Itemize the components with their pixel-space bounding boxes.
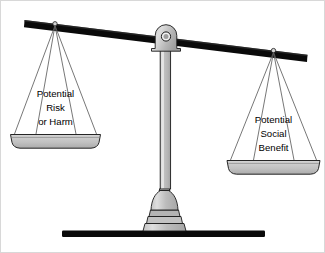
ground-bar xyxy=(62,231,265,238)
right-pan-dish xyxy=(227,161,320,175)
left-pan-dish xyxy=(11,135,101,149)
support-column xyxy=(160,47,170,189)
right-beam-hook xyxy=(271,48,275,52)
balance-scale-figure: Potential Risk or Harm Potential Social … xyxy=(0,0,325,253)
left-pan-label-line-3: or Harm xyxy=(38,116,73,127)
left-beam-hook xyxy=(53,22,57,26)
left-pan-label-line-1: Potential xyxy=(37,88,74,99)
right-pan-label-line-2: Social xyxy=(260,128,286,139)
right-pan-label-line-1: Potential xyxy=(255,114,292,125)
left-pan-label-line-2: Risk xyxy=(46,102,65,113)
right-pan-label-line-3: Benefit xyxy=(259,142,289,153)
